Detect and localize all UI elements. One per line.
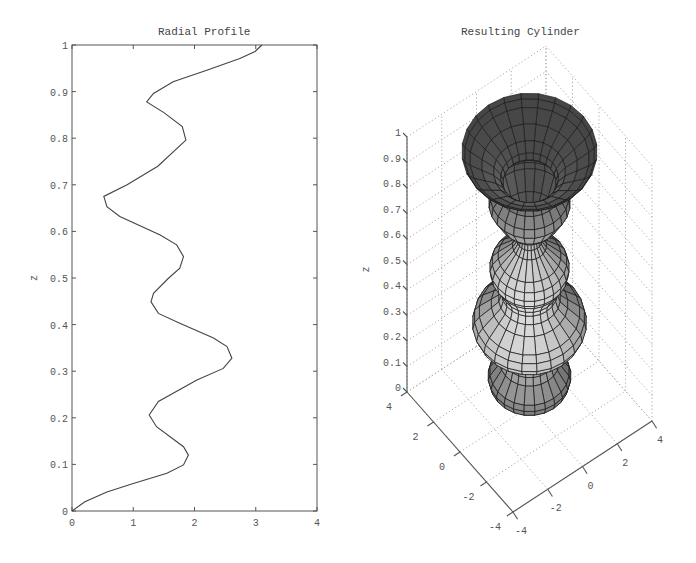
z-axis-label: z: [361, 266, 372, 272]
x-tick-label: 4: [657, 435, 663, 446]
x-tick-label: -4: [515, 526, 527, 537]
z-tick-label: 0.1: [383, 358, 401, 369]
z-tick-label: 0.9: [383, 154, 401, 165]
z-tick-label: 0.5: [383, 256, 401, 267]
x-tick-label: 2: [622, 458, 628, 469]
y-tick-label: -4: [489, 522, 501, 533]
x-tick-label: 0: [587, 481, 593, 492]
z-tick-label: 0.8: [383, 179, 401, 190]
z-tick-label: 0.3: [383, 307, 401, 318]
z-tick-label: 0.6: [383, 230, 401, 241]
y-tick-label: 4: [386, 402, 392, 413]
z-tick-label: 0.4: [383, 281, 401, 292]
x-tick-label: -2: [550, 503, 562, 514]
resulting-cylinder-plot: -4-4-2-200224400.10.20.30.40.50.60.70.80…: [0, 0, 696, 563]
z-tick-label: 1: [395, 128, 401, 139]
y-tick-label: 2: [412, 432, 418, 443]
figure: Radial Profile Resulting Cylinder 012340…: [0, 0, 696, 563]
y-tick-label: -2: [462, 492, 474, 503]
y-tick-label: 0: [439, 462, 445, 473]
z-tick-label: 0.7: [383, 205, 401, 216]
z-tick-label: 0.2: [383, 332, 401, 343]
surface: [462, 94, 596, 416]
z-tick-label: 0: [395, 383, 401, 394]
